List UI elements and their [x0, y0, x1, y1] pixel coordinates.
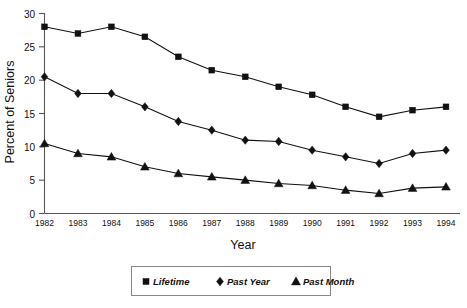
data-point — [309, 146, 316, 154]
data-point — [376, 114, 382, 120]
x-axis-title: Year — [230, 238, 255, 252]
data-point — [75, 89, 82, 97]
data-point — [442, 182, 451, 190]
series-layer — [40, 24, 450, 197]
y-tick-label: 20 — [24, 75, 36, 86]
data-point — [276, 84, 282, 90]
series-line — [45, 77, 447, 164]
x-tick-label: 1994 — [437, 218, 456, 228]
x-tick-label: 1986 — [169, 218, 188, 228]
data-point — [42, 24, 48, 30]
y-tick-label: 30 — [24, 9, 36, 20]
data-point — [443, 146, 450, 154]
data-point — [342, 153, 349, 161]
series-line — [45, 27, 447, 117]
y-tick-label: 5 — [29, 175, 35, 186]
data-point — [108, 89, 115, 97]
y-tick-label: 10 — [24, 142, 36, 153]
x-tick-label: 1991 — [336, 218, 355, 228]
series-lifetime — [42, 24, 449, 120]
chart-canvas: 051015202530 Percent of Seniors 19821983… — [0, 0, 467, 308]
data-point — [175, 117, 182, 125]
y-axis-title: Percent of Seniors — [3, 61, 17, 164]
data-point — [309, 92, 315, 98]
series-past-month — [40, 139, 450, 197]
x-tick-label: 1990 — [303, 218, 322, 228]
legend-label: Past Year — [227, 276, 271, 287]
series-past-year — [41, 73, 449, 168]
x-tick-label: 1988 — [236, 218, 255, 228]
square-marker-icon — [143, 279, 149, 285]
diamond-marker-icon — [217, 277, 224, 286]
x-tick-labels: 1982198319841985198619871988198919901991… — [35, 218, 456, 228]
series-line — [45, 144, 447, 194]
x-tick-label: 1985 — [135, 218, 154, 228]
data-point — [376, 159, 383, 167]
legend-items: LifetimePast YearPast Month — [143, 276, 354, 287]
legend: LifetimePast YearPast Month — [132, 267, 355, 296]
legend-label: Past Month — [303, 276, 354, 287]
y-tick-label: 15 — [24, 109, 36, 120]
x-tick-label: 1989 — [269, 218, 288, 228]
x-tick-label: 1984 — [102, 218, 121, 228]
data-point — [275, 137, 282, 145]
data-point — [242, 136, 249, 144]
data-point — [75, 31, 81, 37]
x-tick-label: 1987 — [202, 218, 221, 228]
y-tick-label: 25 — [24, 42, 36, 53]
data-point — [208, 126, 215, 134]
x-tick-label: 1982 — [35, 218, 54, 228]
data-point — [343, 104, 349, 110]
data-point — [142, 103, 149, 111]
x-axis: 1982198319841985198619871988198919901991… — [35, 214, 460, 253]
y-axis: 051015202530 Percent of Seniors — [3, 9, 45, 220]
data-point — [142, 34, 148, 40]
legend-label: Lifetime — [153, 276, 190, 287]
data-point — [109, 24, 115, 30]
data-point — [209, 67, 215, 73]
triangle-marker-icon — [292, 277, 301, 285]
x-tick-label: 1993 — [403, 218, 422, 228]
x-tick-label: 1983 — [68, 218, 87, 228]
data-point — [443, 104, 449, 110]
data-point — [410, 107, 416, 113]
data-point — [242, 74, 248, 80]
x-tick-label: 1992 — [370, 218, 389, 228]
y-tick-marks — [39, 14, 45, 214]
data-point — [409, 149, 416, 157]
data-point — [175, 54, 181, 60]
y-tick-labels: 051015202530 — [24, 9, 36, 220]
data-point — [40, 139, 49, 147]
line-chart: 051015202530 Percent of Seniors 19821983… — [0, 0, 467, 308]
